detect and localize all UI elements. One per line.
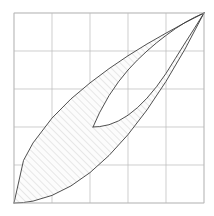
figure-root bbox=[0, 0, 214, 216]
plot-canvas bbox=[0, 0, 214, 216]
